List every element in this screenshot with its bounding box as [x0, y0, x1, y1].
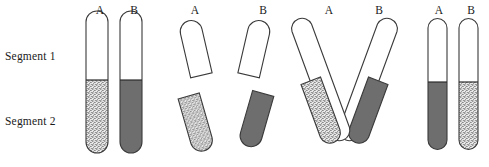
chromatid-g1-B-segment2 [114, 80, 148, 160]
chromatid-label-g3-A: A [322, 4, 336, 16]
group-1-paired [80, 10, 148, 160]
chromatid-label-g2-B: B [256, 4, 270, 16]
chromatid-g4-B [455, 16, 485, 154]
chromosome-crossing-over-figure: Segment 1 Segment 2 [0, 0, 489, 167]
chromatid-g1-A [80, 10, 114, 160]
chromatid-g1-A-segment1 [80, 10, 114, 80]
group-3-crossed [292, 18, 398, 143]
row-label-segment-2: Segment 2 [5, 115, 56, 127]
chromatid-g2-A-segment2 [178, 93, 215, 154]
chromatid-g3-A [292, 18, 350, 143]
group-2-separated [178, 18, 274, 153]
chromatid-label-g1-B: B [127, 4, 141, 16]
chromatid-label-g4-B: B [464, 4, 478, 16]
chromatid-g2-A-segment1-shape [178, 18, 212, 78]
chromatid-label-g4-A: A [432, 4, 446, 16]
chromatid-g2-A-segment1 [178, 18, 212, 78]
chromatid-g4-A [424, 16, 454, 154]
chromatid-label-g2-A: A [188, 4, 202, 16]
chromatid-g2-B-segment2-shape [237, 90, 273, 149]
chromatid-g2-B-segment1-shape [238, 18, 272, 78]
chromatid-g1-B [114, 10, 148, 160]
row-label-segment-1: Segment 1 [5, 50, 56, 62]
chromatid-label-g1-A: A [93, 4, 107, 16]
chromatid-g1-A-segment2 [80, 80, 114, 160]
chromatid-g2-A-segment2-shape [178, 93, 215, 154]
chromatid-label-g3-B: B [372, 4, 386, 16]
chromosome-canvas [0, 0, 489, 167]
chromatid-g1-B-segment1 [114, 10, 148, 80]
group-4-recombinant [424, 16, 485, 154]
chromatid-g2-B-segment2 [237, 90, 273, 149]
chromatid-g2-B-segment1 [238, 18, 272, 78]
